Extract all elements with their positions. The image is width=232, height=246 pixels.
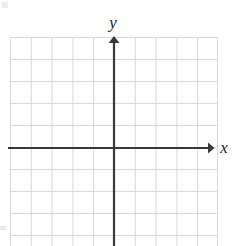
coordinate-grid-screenshot: y x (0, 0, 232, 246)
coordinate-grid-figure: y x (0, 0, 232, 246)
x-axis-label: x (219, 138, 228, 157)
coordinate-plane-svg: y x (0, 0, 232, 246)
y-axis-label: y (107, 13, 117, 32)
